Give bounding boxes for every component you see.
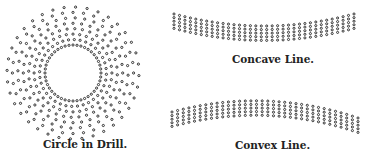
drill-diagram: [0, 0, 371, 160]
convex-caption: Convex Line.: [235, 139, 310, 151]
concave-caption: Concave Line.: [232, 53, 314, 65]
circle-caption: Circle in Drill.: [43, 138, 127, 150]
